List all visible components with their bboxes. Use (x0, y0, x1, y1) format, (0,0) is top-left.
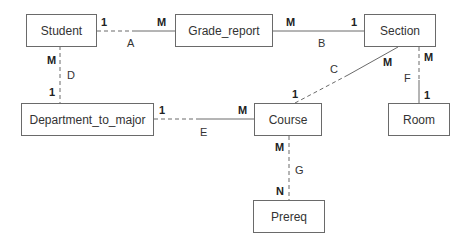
entity-prereq: Prereq (253, 200, 325, 233)
cardinality-b-grade-report: M (286, 16, 295, 28)
relationship-label-f: F (404, 72, 411, 84)
cardinality-g-prereq: N (276, 185, 284, 197)
cardinality-d-department: 1 (49, 86, 55, 98)
relationship-label-e: E (200, 126, 207, 138)
relationship-label-d: D (67, 69, 75, 81)
cardinality-a-student: 1 (101, 16, 107, 28)
relationship-label-c: C (330, 63, 338, 75)
cardinality-c-section: M (383, 56, 392, 68)
entity-section: Section (364, 14, 436, 47)
cardinality-c-course: 1 (292, 88, 298, 100)
cardinality-g-course: M (275, 141, 284, 153)
cardinality-e-department: 1 (159, 104, 165, 116)
relationship-c-dashed (295, 75, 348, 103)
relationship-label-a: A (127, 37, 134, 49)
cardinality-d-student: M (47, 54, 56, 66)
cardinality-a-grade-report: M (157, 16, 166, 28)
entity-room: Room (388, 103, 450, 136)
entity-department-to-major: Department_to_major (21, 103, 154, 136)
relationship-label-b: B (318, 37, 325, 49)
entity-student: Student (26, 14, 97, 47)
entity-grade-report: Grade_report (175, 14, 273, 47)
entity-course: Course (254, 103, 322, 136)
cardinality-f-section: M (424, 51, 433, 63)
cardinality-b-section: 1 (351, 16, 357, 28)
cardinality-e-course: M (238, 104, 247, 116)
cardinality-f-room: 1 (424, 89, 430, 101)
relationship-label-g: G (295, 164, 304, 176)
